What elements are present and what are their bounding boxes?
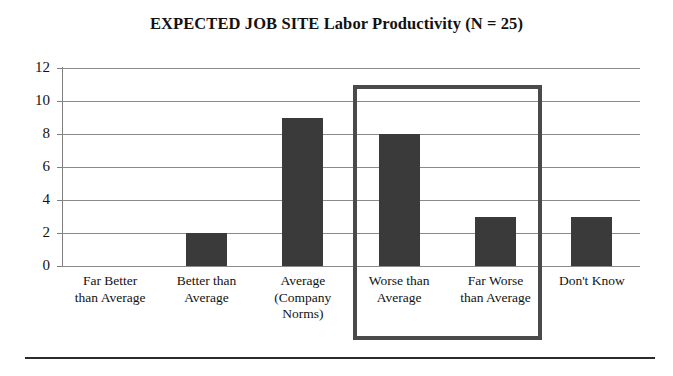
gridline [62, 266, 640, 267]
bottom-divider-rule [25, 357, 655, 359]
category-label-line: Worse than [351, 273, 447, 290]
y-tick-label: 12 [0, 60, 50, 75]
category-label-line: than Average [447, 290, 543, 307]
gridline [62, 233, 640, 234]
bar [571, 217, 612, 267]
bar [475, 217, 516, 267]
chart-figure: EXPECTED JOB SITE Labor Productivity (N … [0, 0, 673, 376]
category-label-line: Don't Know [544, 273, 640, 290]
category-label: Worse thanAverage [351, 273, 447, 306]
y-tick-label: 8 [0, 126, 50, 141]
category-label-line: Far Better [62, 273, 158, 290]
gridline [62, 68, 640, 69]
bar [186, 233, 227, 266]
category-label-line: than Average [62, 290, 158, 307]
y-tick-label: 6 [0, 159, 50, 174]
gridline [62, 101, 640, 102]
gridline [62, 167, 640, 168]
category-label-line: Norms) [255, 306, 351, 323]
category-label-line: Better than [158, 273, 254, 290]
y-tick-label: 4 [0, 192, 50, 207]
category-label: Don't Know [544, 273, 640, 290]
category-label: Far Worsethan Average [447, 273, 543, 306]
y-tick-label: 10 [0, 93, 50, 108]
bar [379, 134, 420, 266]
chart-title: EXPECTED JOB SITE Labor Productivity (N … [0, 14, 673, 34]
gridline [62, 200, 640, 201]
y-tick-label: 2 [0, 225, 50, 240]
plot-area [62, 68, 640, 266]
category-label: Far Betterthan Average [62, 273, 158, 306]
category-label-line: Average [255, 273, 351, 290]
category-label-line: (Company [255, 290, 351, 307]
bar [282, 118, 323, 267]
gridline [62, 134, 640, 135]
category-label: Average(CompanyNorms) [255, 273, 351, 323]
category-label-line: Average [158, 290, 254, 307]
category-label-line: Average [351, 290, 447, 307]
category-label-line: Far Worse [447, 273, 543, 290]
category-label: Better thanAverage [158, 273, 254, 306]
y-tick-label: 0 [0, 258, 50, 273]
